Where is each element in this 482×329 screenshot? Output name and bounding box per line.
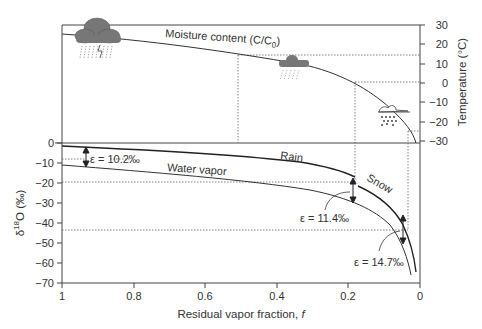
x-axis-labels: 1 0.8 0.6 0.4 0.2 0 bbox=[59, 290, 423, 302]
x-tick-label: 0.8 bbox=[126, 290, 141, 302]
moisture-content-curve bbox=[62, 34, 416, 143]
x-tick-label: 0.6 bbox=[197, 290, 212, 302]
left-axis-ticks bbox=[57, 143, 62, 283]
y-tick-label: −30 bbox=[35, 197, 54, 209]
temp-tick-label: 10 bbox=[436, 58, 448, 70]
right-axis-ticks bbox=[420, 25, 425, 141]
y-tick-label: −70 bbox=[35, 277, 54, 289]
y-tick-label: −10 bbox=[35, 157, 54, 169]
x-axis-title: Residual vapor fraction, f bbox=[177, 308, 306, 320]
temp-tick-label: −30 bbox=[429, 135, 448, 147]
snow-cloud-icon bbox=[378, 106, 410, 126]
right-axis-title: Temperature (°C) bbox=[456, 38, 468, 126]
temp-tick-label: 20 bbox=[436, 38, 448, 50]
rain-label: Rain bbox=[280, 149, 304, 164]
x-tick-label: 0.2 bbox=[340, 290, 355, 302]
temp-tick-label: −10 bbox=[429, 96, 448, 108]
y-tick-label: −60 bbox=[35, 257, 54, 269]
x-tick-label: 0.4 bbox=[269, 290, 284, 302]
storm-cloud-icon bbox=[75, 18, 121, 58]
rain-cloud-icon bbox=[279, 55, 309, 80]
y-tick-label: −40 bbox=[35, 217, 54, 229]
temp-tick-label: 0 bbox=[442, 77, 448, 89]
left-axis-labels: 0 −10 −20 −30 −40 −50 −60 −70 bbox=[35, 137, 54, 289]
x-tick-label: 0 bbox=[417, 290, 423, 302]
y-tick-label: 0 bbox=[48, 137, 54, 149]
y-tick-label: −20 bbox=[35, 177, 54, 189]
temp-tick-label: −20 bbox=[429, 116, 448, 128]
right-axis-labels: 30 20 10 0 −10 −20 −30 bbox=[429, 19, 448, 147]
x-axis-ticks bbox=[62, 283, 420, 288]
epsilon-label-3: ε = 14.7‰ bbox=[354, 256, 404, 268]
x-tick-label: 1 bbox=[59, 290, 65, 302]
temp-tick-label: 30 bbox=[436, 19, 448, 31]
left-axis-title: δ18O (‰) bbox=[12, 190, 26, 237]
y-tick-label: −50 bbox=[35, 237, 54, 249]
epsilon-label-2: ε = 11.4‰ bbox=[300, 212, 349, 224]
isotope-fractionation-chart: 0 −10 −20 −30 −40 −50 −60 −70 1 0.8 0.6 … bbox=[0, 0, 482, 329]
epsilon-label-1: ε = 10.2‰ bbox=[90, 153, 140, 165]
